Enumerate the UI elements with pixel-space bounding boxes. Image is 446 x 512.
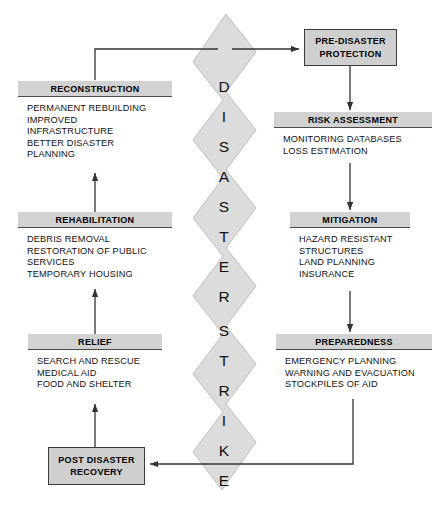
node-title-line: PRE-DISASTER [315,36,386,46]
node-item: STRUCTURES [299,246,410,258]
node-body: HAZARD RESISTANT STRUCTURES LAND PLANNIN… [290,228,410,284]
node-item: DEBRIS REMOVAL [27,234,172,246]
node-mitigation[interactable]: MITIGATION HAZARD RESISTANT STRUCTURES L… [290,212,410,291]
node-title: RELIEF [28,334,162,350]
node-body: EMERGENCY PLANNING WARNING AND EVACUATIO… [276,350,432,395]
node-item: SEARCH AND RESCUE [37,356,162,368]
node-risk-assessment[interactable]: RISK ASSESSMENT MONITORING DATABASES LOS… [274,112,432,163]
node-title: RISK ASSESSMENT [274,112,432,128]
node-item: TEMPORARY HOUSING [27,269,172,281]
node-relief[interactable]: RELIEF SEARCH AND RESCUE MEDICAL AID FOO… [28,334,162,400]
node-item: WARNING AND EVACUATION [285,368,432,380]
node-body: MONITORING DATABASES LOSS ESTIMATION [274,128,432,161]
node-item: STOCKPILES OF AID [285,379,432,391]
node-body: PERMANENT REBUILDING IMPROVED INFRASTRUC… [18,97,172,165]
node-title-line: PROTECTION [319,49,381,59]
node-item: EMERGENCY PLANNING [285,356,432,368]
connector-preparedness-to-recovery [150,399,353,464]
node-reconstruction[interactable]: RECONSTRUCTION PERMANENT REBUILDING IMPR… [18,81,172,172]
node-item: LOSS ESTIMATION [283,146,432,158]
node-item: INFRASTRUCTURE [27,126,172,138]
node-item: MONITORING DATABASES [283,134,432,146]
node-body: DEBRIS REMOVAL RESTORATION OF PUBLIC SER… [18,228,172,284]
lightning-bolt-icon [193,14,256,490]
diagram-canvas: D I S A S T E R S T R I K E PRE-DISASTER… [0,0,446,512]
node-title: REHABILITATION [18,212,172,228]
node-item: FOOD AND SHELTER [37,379,162,391]
node-title-line: POST DISASTER [58,455,134,465]
node-title: PREPAREDNESS [276,334,432,350]
node-post-disaster-recovery[interactable]: POST DISASTER RECOVERY [48,447,145,485]
node-body: SEARCH AND RESCUE MEDICAL AID FOOD AND S… [28,350,162,395]
node-item: IMPROVED [27,115,172,127]
node-rehabilitation[interactable]: REHABILITATION DEBRIS REMOVAL RESTORATIO… [18,212,172,289]
node-item: SERVICES [27,257,172,269]
node-item: MEDICAL AID [37,368,162,380]
node-pre-disaster-protection[interactable]: PRE-DISASTER PROTECTION [304,29,397,66]
node-item: LAND PLANNING [299,257,410,269]
node-title-line: RECOVERY [70,467,123,477]
node-item: INSURANCE [299,269,410,281]
node-item: BETTER DISASTER [27,138,172,150]
node-item: PERMANENT REBUILDING [27,103,172,115]
node-item: HAZARD RESISTANT [299,234,410,246]
node-title: RECONSTRUCTION [18,81,172,97]
node-item: RESTORATION OF PUBLIC [27,246,172,258]
node-item: PLANNING [27,149,172,161]
node-preparedness[interactable]: PREPAREDNESS EMERGENCY PLANNING WARNING … [276,334,432,399]
node-title: MITIGATION [290,212,410,228]
